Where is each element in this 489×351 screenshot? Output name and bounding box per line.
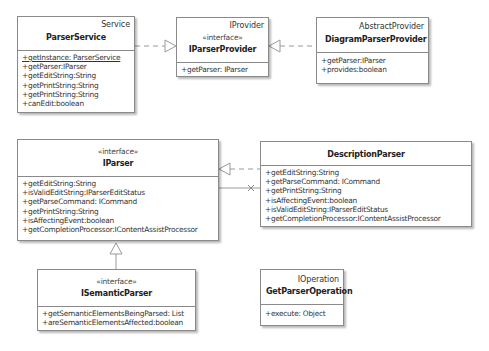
class-get-parser-operation[interactable]: IOperation GetParserOperation +execute: … — [260, 269, 344, 326]
operation: +areSemanticElementsAffected:boolean — [42, 318, 193, 327]
operation: +getPrintString:String — [22, 81, 132, 90]
class-header: DescriptionParser — [261, 142, 471, 166]
operations-list: +getEditString:String +getParseCommand: … — [265, 168, 469, 223]
operation: +execute: Object — [265, 309, 341, 318]
class-iparser-provider[interactable]: IProvider «interface» IParserProvider +g… — [176, 17, 269, 77]
operations-list: +getEditString:String +isValidEditString… — [22, 179, 216, 234]
operation: +getCompletionProcessor:IContentAssistPr… — [22, 225, 216, 234]
class-diagram-parser-provider[interactable]: AbstractProvider DiagramParserProvider +… — [316, 17, 429, 84]
operation: +getPrintString:String — [22, 207, 216, 216]
class-isemantic-parser[interactable]: «interface» ISemanticParser +getSemantic… — [37, 269, 196, 331]
class-header: IProvider «interface» IParserProvider — [177, 18, 268, 63]
class-name: IParserProvider — [177, 45, 268, 54]
operation: +getCompletionProcessor:IContentAssistPr… — [265, 214, 469, 223]
operation: +getInstance: ParserService — [22, 53, 132, 62]
implements-label: IOperation — [298, 275, 339, 284]
operation: +getParseCommand: ICommand — [22, 197, 216, 206]
implements-label: IProvider — [230, 21, 264, 30]
operation: +isValidEditString:IParserEditStatus — [265, 205, 469, 214]
class-name: DiagramParserProvider — [325, 35, 428, 44]
triangle-arrowhead-icon — [110, 243, 122, 254]
stereotype-label: «interface» — [18, 147, 218, 156]
operation: +getParser:IParser — [321, 56, 426, 65]
class-parser-service[interactable]: Service ParserService +getInstance: Pars… — [17, 16, 135, 113]
triangle-arrowhead-icon — [269, 40, 280, 52]
stereotype-label: «interface» — [38, 277, 195, 286]
operation: +isAffectingEvent:boolean — [265, 196, 469, 205]
operations-list: +getInstance: ParserService +getParser:I… — [22, 53, 132, 108]
operations-list: +getParser:IParser +provides:boolean — [321, 56, 426, 74]
operation: +canEdit:boolean — [22, 99, 132, 108]
operation: +isValidEditString:IParserEditStatus — [22, 188, 216, 197]
class-name: ISemanticParser — [38, 289, 195, 298]
operations-list: +getParser: IParser — [181, 65, 266, 74]
triangle-arrowhead-icon — [165, 40, 176, 52]
extends-label: AbstractProvider — [359, 22, 424, 31]
class-description-parser[interactable]: DescriptionParser +getEditString:String … — [260, 141, 472, 227]
class-header: «interface» ISemanticParser — [38, 270, 195, 307]
class-header: «interface» IParser — [18, 140, 218, 177]
class-name: ParserService — [18, 33, 134, 42]
class-name: DescriptionParser — [261, 150, 471, 159]
operation: +provides:boolean — [321, 65, 426, 74]
class-name: IParser — [18, 159, 218, 168]
operation: +getSemanticElementsBeingParsed: List — [42, 309, 193, 318]
triangle-arrowhead-icon — [219, 163, 230, 175]
operation: +getParser: IParser — [181, 65, 266, 74]
operations-list: +execute: Object — [265, 309, 341, 318]
class-iparser[interactable]: «interface» IParser +getEditString:Strin… — [17, 139, 219, 241]
operation: +getPrintString:String — [22, 90, 132, 99]
class-header: AbstractProvider DiagramParserProvider — [317, 18, 428, 53]
operation: +getEditString:String — [22, 71, 132, 80]
operations-list: +getSemanticElementsBeingParsed: List +a… — [42, 309, 193, 327]
class-header: Service ParserService — [18, 17, 134, 51]
class-header: IOperation GetParserOperation — [261, 270, 343, 305]
stereotype-label: «interface» — [177, 33, 268, 42]
class-name: GetParserOperation — [266, 287, 343, 296]
operation: +getEditString:String — [265, 168, 469, 177]
operation: +getPrintString:String — [265, 186, 469, 195]
operation: +isAffectingEvent:boolean — [22, 216, 216, 225]
stereotype-label: Service — [101, 20, 130, 29]
operation: +getEditString:String — [22, 179, 216, 188]
operation: +getParseCommand: ICommand — [265, 177, 469, 186]
operation: +getParser:IParser — [22, 62, 132, 71]
